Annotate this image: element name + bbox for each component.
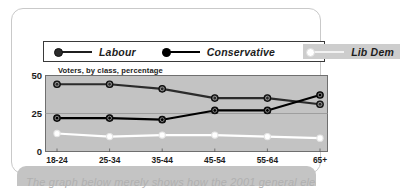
legend-label-lib-dem: Lib Dem — [351, 46, 394, 58]
legend-label-labour: Labour — [99, 46, 136, 58]
x-tick-3: 45-54 — [185, 155, 245, 165]
y-tick-50: 50 — [20, 70, 42, 81]
labour-marker-icon — [54, 46, 92, 58]
conservative-marker-icon — [162, 46, 200, 58]
chart-legend: Labour Conservative Lib Dem — [43, 41, 325, 62]
caption-text: The graph below merely shows how the 200… — [26, 176, 316, 188]
y-tick-25: 25 — [20, 108, 42, 119]
x-tick-5: 65+ — [290, 155, 350, 165]
line-chart-svg — [45, 75, 328, 152]
x-tick-0: 18-24 — [27, 155, 87, 165]
x-tick-2: 35-44 — [132, 155, 192, 165]
legend-label-conservative: Conservative — [207, 46, 275, 58]
x-tick-1: 25-34 — [80, 155, 140, 165]
plot-area — [45, 75, 328, 152]
chart-card: Labour Conservative Lib Dem Voters, by c… — [11, 8, 321, 174]
legend-item-lib-dem[interactable]: Lib Dem — [303, 44, 400, 59]
legend-item-labour[interactable]: Labour — [52, 42, 138, 61]
lib-dem-marker-icon — [306, 46, 344, 58]
x-tick-4: 55-64 — [237, 155, 297, 165]
legend-item-conservative[interactable]: Conservative — [160, 42, 277, 61]
axis-note: Voters, by class, percentage — [58, 66, 163, 75]
